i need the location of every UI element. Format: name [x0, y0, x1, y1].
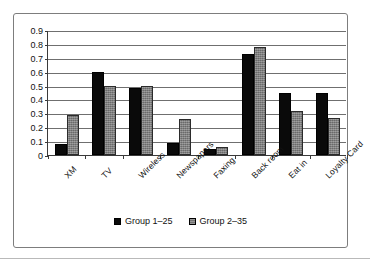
- bar: [67, 115, 79, 155]
- chart-legend: Group 1–25Group 2–35: [14, 216, 347, 226]
- legend-swatch-icon: [189, 218, 196, 225]
- legend-label: Group 1–25: [125, 216, 173, 226]
- y-axis-tick-label: 0.4: [30, 96, 43, 105]
- bar-group: [48, 31, 85, 155]
- x-axis-label: XM: [63, 165, 79, 181]
- y-axis-tick-label: 0.2: [30, 124, 43, 133]
- bar-group: [310, 31, 347, 155]
- x-axis-label: TV: [100, 166, 114, 180]
- bar: [104, 86, 116, 155]
- bar: [316, 93, 328, 156]
- x-axis-tick-mark: [310, 155, 311, 159]
- bar: [167, 143, 179, 155]
- x-axis-tick-mark: [48, 155, 49, 159]
- bar: [216, 147, 228, 155]
- bars-layer: [48, 31, 346, 155]
- legend-swatch-icon: [114, 218, 121, 225]
- bar: [129, 88, 141, 155]
- bar-group: [160, 31, 197, 155]
- page-divider-rule: [0, 258, 370, 259]
- bar: [242, 54, 254, 155]
- legend-entry[interactable]: Group 2–35: [189, 216, 248, 226]
- x-axis-label: Faxing: [212, 156, 237, 181]
- bar-group: [85, 31, 122, 155]
- y-axis-tick-label: 0.7: [30, 54, 43, 63]
- x-axis-label: Eat in: [287, 158, 309, 180]
- bar-group: [235, 31, 272, 155]
- legend-entry[interactable]: Group 1–25: [114, 216, 173, 226]
- bar: [141, 86, 153, 155]
- bar: [328, 118, 340, 156]
- y-axis-tick-label: 0.8: [30, 40, 43, 49]
- bar: [291, 111, 303, 155]
- y-axis-tick-label: 0.6: [30, 68, 43, 77]
- bar: [254, 47, 266, 155]
- y-axis-tick-label: 0.3: [30, 110, 43, 119]
- x-axis-tick-mark: [235, 155, 236, 159]
- y-axis-tick-label: 0: [38, 152, 43, 161]
- x-axis-tick-mark: [123, 155, 124, 159]
- bar-group: [198, 31, 235, 155]
- legend-label: Group 2–35: [200, 216, 248, 226]
- plot-area: 0.90.80.70.60.50.40.30.20.10: [47, 31, 346, 156]
- y-axis-tick-label: 0.1: [30, 138, 43, 147]
- bar: [179, 119, 191, 155]
- bar: [92, 72, 104, 155]
- bar-group: [272, 31, 309, 155]
- x-axis-tick-mark: [85, 155, 86, 159]
- bar-group: [123, 31, 160, 155]
- y-axis-tick-label: 0.5: [30, 82, 43, 91]
- bar: [55, 144, 67, 155]
- chart-figure-frame: 0.90.80.70.60.50.40.30.20.10 XMTVWireles…: [13, 13, 348, 248]
- y-axis-tick-label: 0.9: [30, 27, 43, 36]
